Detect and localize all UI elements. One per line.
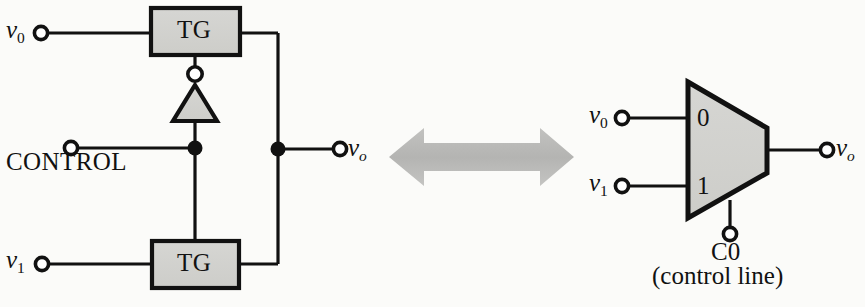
junction-dot-output: [271, 142, 286, 157]
terminal-vo-left[interactable]: [333, 142, 346, 155]
label-v0-right: v0: [589, 101, 608, 132]
inverter-triangle: [173, 85, 217, 121]
tg-bottom-label: TG: [177, 249, 211, 277]
terminal-v0-left[interactable]: [34, 26, 47, 39]
label-v1-left: v1: [6, 246, 25, 277]
inverter-bubble-icon: [188, 67, 202, 81]
label-control: CONTROL: [6, 148, 127, 176]
label-v1-right: v1: [589, 169, 608, 200]
inverter-symbol[interactable]: [173, 67, 217, 121]
equivalence-arrow-icon: [389, 128, 574, 186]
label-vo-left: vo: [348, 134, 367, 165]
terminal-vo-right[interactable]: [820, 143, 833, 156]
mux-port-label-1: 1: [697, 172, 710, 200]
mux-port-label-0: 0: [697, 104, 710, 132]
junction-dot-control: [188, 141, 203, 156]
terminal-v0-right[interactable]: [615, 111, 628, 124]
circuit-figure: v0 v1 CONTROL vo TG TG v0 v1 vo 0 1 C0 (…: [0, 0, 865, 307]
label-v0-left: v0: [6, 16, 25, 47]
label-vo-right: vo: [836, 134, 855, 165]
tg-top-label: TG: [177, 16, 211, 44]
terminal-v1-left[interactable]: [35, 257, 48, 270]
terminal-v1-right[interactable]: [615, 179, 628, 192]
label-control-line-caption: (control line): [652, 262, 783, 290]
